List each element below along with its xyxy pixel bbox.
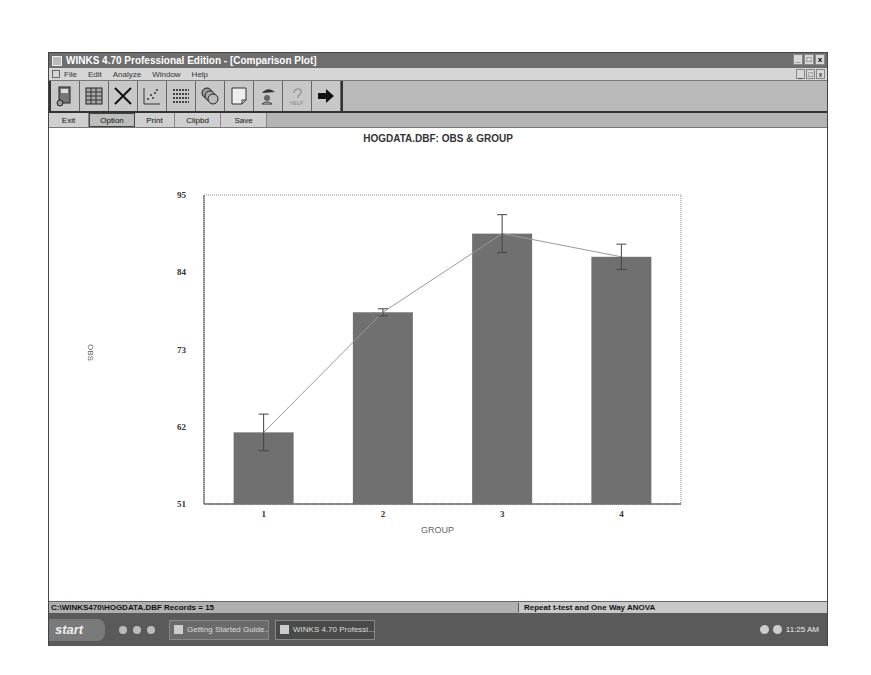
volume-icon[interactable] (760, 625, 769, 634)
app-icon (280, 625, 289, 634)
taskbar-item-getting-started[interactable]: Getting Started Guide... (169, 620, 269, 640)
y-tick-label: 73 (177, 345, 187, 355)
x-tick-label: 4 (619, 509, 624, 519)
quick-launch-desktop-icon[interactable] (119, 626, 127, 634)
x-tick-label: 3 (500, 509, 505, 519)
comparison-plot: 51627384951234GROUPOBS (49, 53, 829, 647)
taskbar-item-winks[interactable]: WINKS 4.70 Professi... (275, 620, 375, 640)
bar-group-2 (353, 312, 413, 504)
network-icon[interactable] (773, 625, 782, 634)
x-tick-label: 2 (381, 509, 386, 519)
status-file-records: C:\WINKS470\HOGDATA.DBF Records = 15 (49, 603, 519, 612)
y-tick-label: 51 (177, 499, 187, 509)
quick-launch-browser-icon[interactable] (133, 626, 141, 634)
taskbar-item-label: Getting Started Guide... (187, 625, 269, 634)
app-window: WINKS 4.70 Professional Edition - [Compa… (48, 52, 828, 646)
document-icon (174, 625, 183, 634)
y-tick-label: 95 (177, 190, 187, 200)
start-button[interactable]: start (49, 619, 105, 641)
mean-line (264, 234, 622, 433)
x-tick-label: 1 (261, 509, 266, 519)
x-axis-label: GROUP (421, 525, 454, 535)
system-tray: 11:25 AM (760, 625, 827, 634)
start-label: start (55, 622, 83, 637)
quick-launch (119, 626, 155, 634)
taskbar: start Getting Started Guide... WINKS 4.7… (49, 613, 827, 646)
clock: 11:25 AM (786, 625, 819, 634)
y-tick-label: 62 (177, 422, 187, 432)
y-tick-label: 84 (177, 267, 187, 277)
status-analysis: Repeat t-test and One Way ANOVA (519, 602, 827, 613)
bar-group-4 (591, 257, 651, 504)
status-bar: C:\WINKS470\HOGDATA.DBF Records = 15 Rep… (49, 601, 827, 613)
y-axis-label: OBS (86, 344, 95, 361)
quick-launch-media-icon[interactable] (147, 626, 155, 634)
taskbar-item-label: WINKS 4.70 Professi... (293, 625, 375, 634)
bar-group-3 (472, 234, 532, 504)
